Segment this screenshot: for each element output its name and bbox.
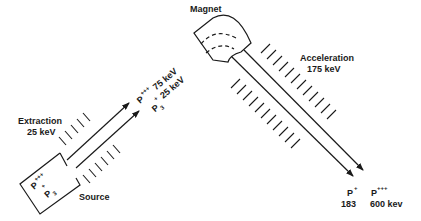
acceleration-beams [232,50,363,176]
source-ion1: P [29,180,40,192]
output-ions: P + 183 P +++ 600 kev [341,185,403,209]
mid-ions: P +++ 75 keV + 25 keV P 3 [134,65,191,120]
mid-ion2-charge: + [153,95,160,102]
source-label: Source [79,192,110,202]
source-ions: P +++ + P 3 [28,171,60,205]
source-ion2: P [42,188,53,200]
out-ion1-value: 183 [341,199,356,209]
magnet-label: Magnet [190,4,222,14]
extraction-energy: 25 keV [27,127,56,137]
out-ion2-charge: +++ [377,185,388,191]
mid-ion2: P [150,102,161,114]
acceleration-title: Acceleration [300,53,354,63]
extraction-electrodes [59,113,120,183]
magnet [194,15,251,62]
out-ion1: P [347,188,353,198]
out-ion1-charge: + [354,185,358,191]
acceleration-energy: 175 keV [307,64,341,74]
mid-ion1-charge: +++ [139,85,151,97]
mid-ion1: P [135,94,146,106]
accelerator-diagram: Magnet Acceleration 175 keV Extraction 2… [0,0,421,221]
extraction-title: Extraction [18,116,62,126]
extraction-beams [67,103,139,168]
out-ion2-value: 600 kev [370,199,403,209]
